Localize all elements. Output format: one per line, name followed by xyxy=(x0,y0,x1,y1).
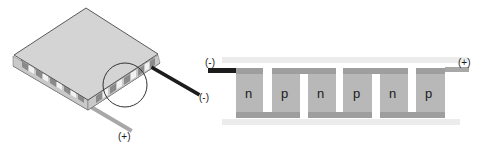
leg-label-6: p xyxy=(425,86,432,101)
schematic-positive-label: (+) xyxy=(458,57,471,68)
bottom-ceramic-plate xyxy=(222,119,460,125)
schematic-negative-label: (-) xyxy=(205,57,215,68)
top-ceramic-plate xyxy=(222,57,468,63)
np-leg-schematic: n p n p n p (-) (+) xyxy=(205,57,471,125)
leg-label-1: n xyxy=(245,86,252,101)
schematic-negative-wire xyxy=(208,68,236,73)
top-conductors xyxy=(236,68,445,74)
positive-wire xyxy=(86,104,130,130)
leg-label-4: p xyxy=(353,86,360,101)
negative-wire xyxy=(153,68,198,94)
thermoelectric-diagram: (-) (+) xyxy=(0,0,484,150)
isometric-peltier-module: (-) (+) xyxy=(13,8,209,142)
leg-label-3: n xyxy=(317,86,324,101)
bottom-conductors xyxy=(236,112,445,118)
leg-label-2: p xyxy=(281,86,288,101)
leg-label-5: n xyxy=(389,86,396,101)
module-positive-label: (+) xyxy=(118,131,131,142)
semiconductor-legs xyxy=(236,74,445,113)
top-plate xyxy=(14,8,158,100)
module-negative-label: (-) xyxy=(199,92,209,103)
